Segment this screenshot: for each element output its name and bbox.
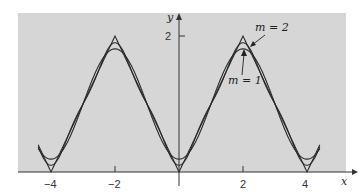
x-tick-label: 2 — [240, 178, 246, 190]
x-axis-arrow-icon — [352, 169, 358, 175]
x-tick-label: −4 — [44, 178, 57, 190]
annotation-m1: m = 1 — [228, 74, 262, 87]
annotation-m2: m = 2 — [255, 21, 289, 34]
y-axis-label: y — [166, 11, 174, 24]
x-axis-label: x — [341, 175, 348, 188]
fourier-approximation-chart: y 2 x −4 −2 2 4 m = 2 m = 1 — [0, 0, 363, 194]
x-tick-label: −2 — [108, 178, 121, 190]
plot-background — [18, 13, 346, 172]
y-tick-label: 2 — [165, 30, 171, 42]
x-tick-label: 4 — [302, 178, 308, 190]
